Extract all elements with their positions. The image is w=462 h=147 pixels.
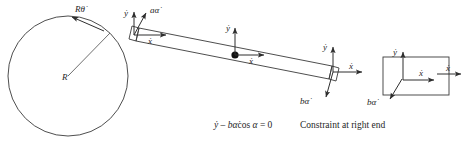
rod-right-end-vectors bbox=[326, 47, 362, 97]
right-ydot-label: ẏ bbox=[322, 42, 328, 52]
right-xdot-label: ẋ bbox=[348, 61, 353, 71]
block-b-alphadot-label: bα̇ bbox=[367, 97, 379, 107]
rod-center-vectors bbox=[235, 28, 264, 55]
center-xdot-label: ẋ bbox=[248, 56, 253, 66]
left-a-alphadot-arrow bbox=[134, 13, 146, 35]
right-b-alphadot-label: bα̇ bbox=[300, 96, 312, 106]
left-a-alphadot-label: aα̇ bbox=[150, 5, 162, 15]
block-inner-xdot-label: ẋ bbox=[418, 68, 423, 78]
radius-label: R bbox=[61, 72, 68, 82]
mechanics-diagram: Rθ̇ R ẏ aα̇ ẋ ẏ ẋ ẏ ẋ bα̇ ẏ ẋ ẋ bα̇ ẏ – … bbox=[0, 0, 462, 147]
constraint-cos: cos bbox=[237, 120, 252, 130]
left-ydot-label: ẏ bbox=[123, 8, 129, 18]
constraint-equation: ẏ – bα̇cos α = 0 bbox=[213, 120, 273, 130]
center-ydot-label: ẏ bbox=[225, 23, 231, 33]
right-block-rect bbox=[383, 57, 449, 95]
constraint-minus: – bbox=[218, 120, 228, 130]
constraint-caption: Constraint at right end bbox=[300, 120, 385, 130]
block-outer-xdot-label: ẋ bbox=[445, 63, 450, 73]
radius-line bbox=[68, 33, 110, 76]
block-ydot-label: ẏ bbox=[392, 47, 398, 57]
block-b-alphadot-arrow bbox=[390, 79, 402, 99]
constraint-equals: = 0 bbox=[258, 120, 273, 130]
rod-left-end-vectors bbox=[134, 12, 166, 35]
disk-group bbox=[8, 16, 128, 136]
rod-right-end-cap bbox=[329, 66, 339, 81]
rod-group bbox=[129, 26, 339, 81]
rim-velocity-label: Rθ̇ bbox=[74, 4, 88, 14]
diagram-canvas: Rθ̇ R ẏ aα̇ ẋ ẏ ẋ ẏ ẋ bα̇ ẏ ẋ ẋ bα̇ ẏ – … bbox=[0, 0, 462, 147]
left-xdot-label: ẋ bbox=[147, 36, 152, 46]
